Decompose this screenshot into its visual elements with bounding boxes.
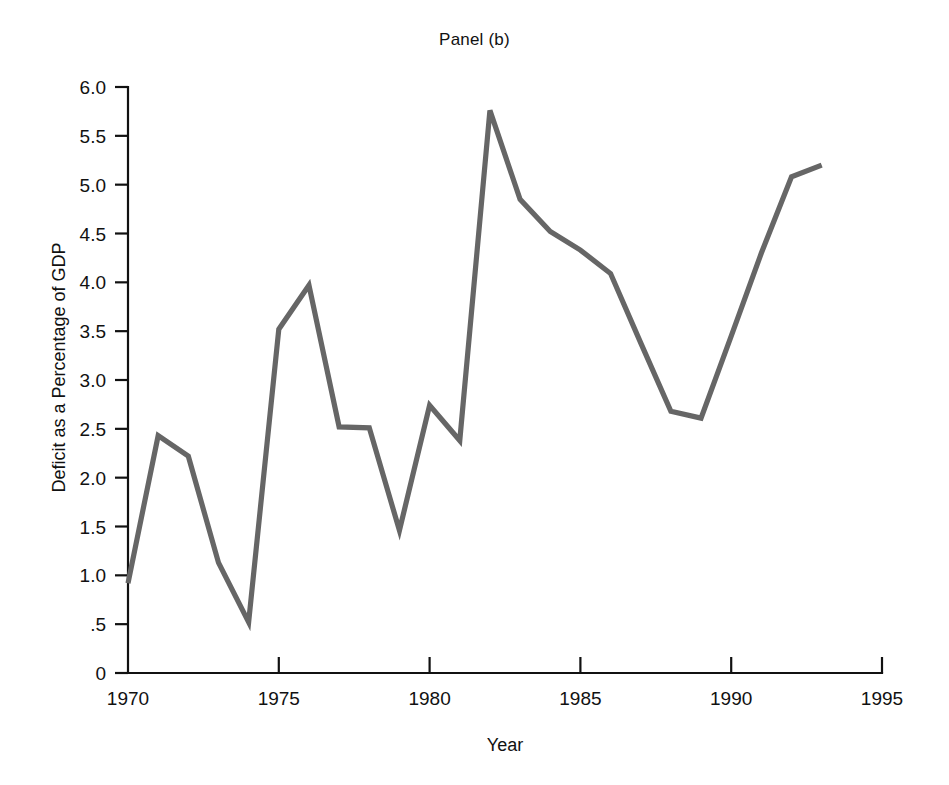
data-series-line: [128, 110, 822, 622]
y-tick-label: .5: [90, 614, 106, 635]
y-tick-label: 6.0: [80, 77, 106, 98]
x-tick-label: 1985: [559, 688, 601, 709]
y-tick-label: 4.5: [80, 224, 106, 245]
y-tick-label: 1.5: [80, 517, 106, 538]
y-tick-label: 2.5: [80, 419, 106, 440]
x-tick-label: 1990: [710, 688, 752, 709]
x-tick-label: 1970: [107, 688, 149, 709]
line-chart-plot: 0.51.01.52.02.53.03.54.04.55.05.56.0 197…: [0, 0, 949, 785]
y-tick-label: 4.0: [80, 272, 106, 293]
y-tick-label: 3.5: [80, 321, 106, 342]
x-tick-label: 1995: [861, 688, 903, 709]
y-axis-tick-group: 0.51.01.52.02.53.03.54.04.55.05.56.0: [80, 77, 128, 684]
y-tick-label: 3.0: [80, 370, 106, 391]
y-tick-label: 5.0: [80, 175, 106, 196]
x-axis-tick-group: 197019751980198519901995: [107, 657, 903, 709]
y-tick-label: 2.0: [80, 468, 106, 489]
y-tick-label: 1.0: [80, 565, 106, 586]
x-tick-label: 1980: [408, 688, 450, 709]
figure-panel-b: Panel (b) Deficit as a Percentage of GDP…: [0, 0, 949, 785]
y-tick-label: 5.5: [80, 126, 106, 147]
x-tick-label: 1975: [258, 688, 300, 709]
y-tick-label: 0: [95, 663, 106, 684]
axis-frame: [128, 87, 882, 673]
